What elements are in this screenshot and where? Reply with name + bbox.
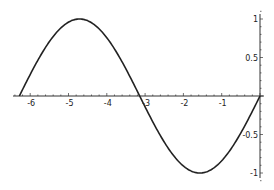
y-tick-label: 0.5 bbox=[245, 54, 258, 63]
x-tick-label: -5 bbox=[66, 99, 74, 108]
y-tick-label: -0.5 bbox=[242, 131, 258, 140]
sine-plot: -6-5-4-3-2-110.5-0.5-1 bbox=[0, 0, 274, 190]
x-tick-label: -6 bbox=[27, 99, 35, 108]
y-tick-label: 1 bbox=[253, 15, 258, 24]
x-tick-label: -2 bbox=[180, 99, 188, 108]
x-tick-label: -1 bbox=[219, 99, 227, 108]
y-tick-label: -1 bbox=[250, 169, 258, 178]
x-tick-label: -4 bbox=[104, 99, 112, 108]
